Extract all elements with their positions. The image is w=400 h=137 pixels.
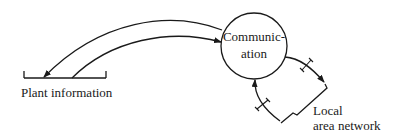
break-marker-icon	[255, 98, 270, 111]
flow-arrow-to-plant	[44, 21, 222, 77]
lan-label: Local area network	[313, 103, 381, 133]
lan-label-line1: Local	[313, 103, 381, 118]
break-marker-icon	[300, 58, 313, 72]
communication-label-line2: ation	[221, 45, 287, 62]
flow-arrow-to-communication	[72, 36, 221, 78]
flow-arrow-to-lan	[285, 57, 324, 82]
lan-label-line2: area network	[313, 118, 381, 133]
plant-information-store	[24, 71, 106, 78]
plant-information-label: Plant information	[21, 85, 112, 100]
communication-label: Communic- ation	[221, 28, 287, 62]
communication-label-line1: Communic-	[221, 28, 287, 45]
